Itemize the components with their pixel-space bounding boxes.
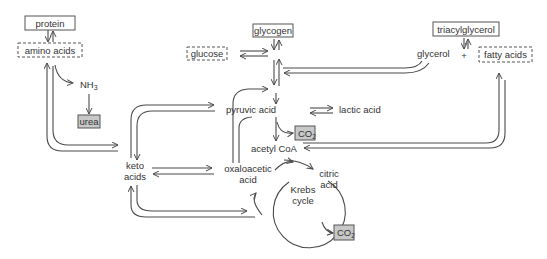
- protein-node: protein: [25, 16, 75, 30]
- keto-to-amino-arrow: [47, 63, 118, 151]
- urea-node: urea: [78, 115, 100, 128]
- pyruvic-acid-node: pyruvic acid: [226, 104, 276, 115]
- acetyl-coa-node: acetyl CoA: [251, 143, 298, 154]
- krebs-to-oxalo-arrow: [254, 193, 262, 215]
- oxalo-inner-line: [239, 117, 252, 163]
- keto-to-krebs-arrow: [137, 185, 247, 211]
- oxaloacetic-acid-node: oxaloacetic acid: [224, 163, 272, 185]
- amino-acids-label: amino acids: [25, 45, 76, 56]
- krebs-to-keto-arrow: [131, 186, 255, 217]
- amino-acids-node: amino acids: [18, 43, 82, 57]
- plus-sign: +: [461, 50, 467, 61]
- glycogen-glucose-arrows: [274, 39, 279, 50]
- pyruvic-to-co2-arrow: [277, 122, 293, 133]
- pyruvic-lactic-arrows: [310, 108, 333, 113]
- keto-acids-label-1: keto: [126, 160, 144, 171]
- pyruvic-to-keto-arrow: [137, 111, 215, 160]
- amino-to-nh3-arrow: [55, 65, 73, 83]
- glycogen-label: glycogen: [254, 25, 292, 36]
- glycerol-node: glycerol: [417, 48, 450, 59]
- lactic-acid-node: lactic acid: [339, 104, 381, 115]
- protein-amino-arrows: [48, 30, 53, 42]
- triacylglycerol-label: triacylglycerol: [437, 24, 495, 35]
- krebs-to-co2-arrow: [322, 222, 333, 233]
- krebs-label-2: cycle: [292, 195, 314, 206]
- keto-acids-node: keto acids: [124, 160, 146, 182]
- glucose-label: glucose: [191, 48, 224, 59]
- triacylglycerol-arrows: [464, 38, 468, 49]
- nh3-label: NH3: [80, 79, 98, 91]
- oxaloacetic-label-2: acid: [239, 174, 256, 185]
- acetyl-coa-label: acetyl CoA: [251, 143, 298, 154]
- glucose-node: glucose: [187, 47, 227, 60]
- glucose-junction-arrows: [240, 51, 268, 56]
- nh3-node: NH3: [80, 79, 98, 91]
- co2-top-node: CO2: [295, 126, 316, 140]
- amino-to-keto-arrow: [53, 66, 118, 145]
- oxaloacetic-label-1: oxaloacetic: [224, 163, 272, 174]
- metabolism-diagram: protein amino acids NH3 urea keto acids …: [0, 0, 547, 259]
- urea-label: urea: [79, 116, 99, 127]
- citric-acid-label-2: acid: [320, 179, 337, 190]
- keto-acids-label-2: acids: [124, 171, 146, 182]
- pyruvic-acid-label: pyruvic acid: [226, 104, 276, 115]
- co2-bottom-node: CO2: [334, 225, 355, 240]
- krebs-label-1: Krebs: [291, 184, 316, 195]
- oxalo-acetyl-to-citric-arrow: [275, 162, 293, 170]
- glycerol-label: glycerol: [417, 48, 450, 59]
- fatty-acids-node: fatty acids: [479, 47, 532, 62]
- lactic-acid-label: lactic acid: [339, 104, 381, 115]
- fatty-to-acetyl-arrow: [304, 80, 505, 148]
- citric-acid-node: citric acid: [319, 168, 339, 190]
- triacylglycerol-node: triacylglycerol: [433, 22, 499, 36]
- citric-acid-label-1: citric: [319, 168, 339, 179]
- glycogen-node: glycogen: [253, 24, 293, 37]
- protein-label: protein: [35, 18, 64, 29]
- fatty-acids-label: fatty acids: [484, 49, 527, 60]
